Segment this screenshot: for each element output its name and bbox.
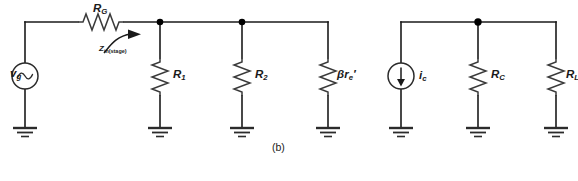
resistor-RG-symbol xyxy=(78,14,124,30)
label-zin-stage: Zin(stage) xyxy=(99,45,127,54)
node-dot-R2 xyxy=(239,19,246,26)
label-resistor-beta-re: βre′ xyxy=(337,69,356,82)
branch-RL xyxy=(548,22,564,128)
label-resistor-R2: R2 xyxy=(255,69,268,82)
ground-symbol-source xyxy=(13,128,37,137)
label-source-voltage: vg xyxy=(10,68,21,81)
circuit-schematic-svg xyxy=(0,0,578,181)
ground-symbol-RC xyxy=(466,128,490,137)
label-resistor-R1: R1 xyxy=(173,69,186,82)
branch-RC xyxy=(470,22,486,128)
label-current-source: ic xyxy=(419,70,427,83)
branch-beta-re xyxy=(320,22,336,128)
branch-R2 xyxy=(234,22,250,128)
current-source-symbol xyxy=(388,63,414,89)
label-resistor-RL: RL xyxy=(566,69,578,82)
ground-symbol-R1 xyxy=(148,128,172,137)
ground-symbol-R2 xyxy=(230,128,254,137)
ground-symbol-beta-re xyxy=(316,128,340,137)
node-dot-RC xyxy=(474,18,481,25)
ground-symbol-RL xyxy=(544,128,568,137)
label-resistor-RG: RG xyxy=(93,3,107,16)
branch-R1 xyxy=(152,22,168,128)
ground-symbol-current-source xyxy=(389,128,413,137)
circuit-diagram-figure: vg RG Zin(stage) R1 R2 βre′ ic RC RL (b) xyxy=(0,0,578,181)
figure-caption: (b) xyxy=(272,142,285,153)
node-dot-R1 xyxy=(157,19,164,26)
label-resistor-RC: RC xyxy=(491,69,505,82)
